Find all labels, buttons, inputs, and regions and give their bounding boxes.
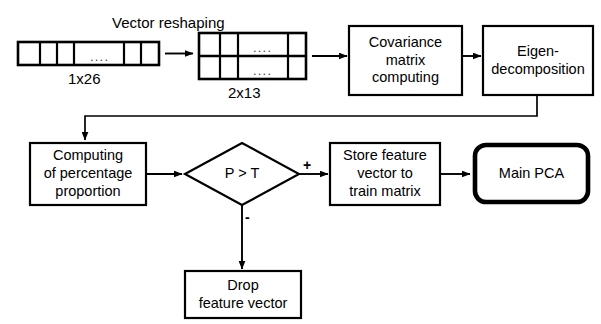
- reshaped-matrix-label: 2x13: [228, 84, 261, 101]
- node-store-shape: [330, 143, 440, 205]
- node-covariance-shape: [349, 26, 462, 95]
- node-decision-shape: [185, 143, 299, 205]
- input-vector-shape: [18, 42, 159, 65]
- node-percentage-shape: [30, 143, 146, 205]
- node-main-pca-shape: [475, 145, 588, 202]
- reshaped-matrix-ellipsis-row1: ....: [253, 41, 272, 54]
- edge-label-positive: +: [303, 158, 311, 172]
- input-vector-ellipsis: ....: [90, 50, 109, 63]
- vector-reshaping-caption: Vector reshaping: [112, 14, 225, 31]
- node-eigen-shape: [483, 26, 593, 95]
- flowchart-diagram: Vector reshaping .... 1x26 .... .... 2x1…: [0, 0, 601, 324]
- edge-eigen-to-percentage: [85, 95, 537, 140]
- node-drop-shape: [185, 271, 301, 318]
- edge-label-negative: -: [245, 210, 250, 224]
- reshaped-matrix-ellipsis-row2: ....: [253, 64, 272, 77]
- input-vector-label: 1x26: [68, 70, 101, 87]
